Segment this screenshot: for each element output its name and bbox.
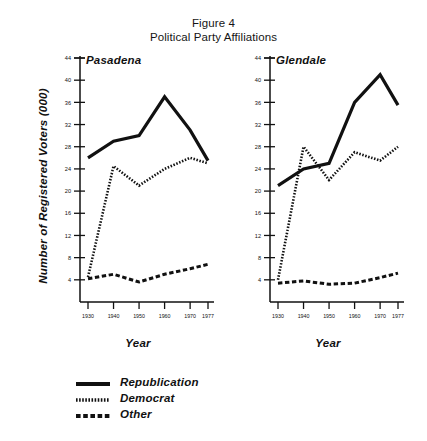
x-tick-label: 1950 bbox=[323, 313, 335, 319]
x-tick-label: 1970 bbox=[374, 313, 386, 319]
y-tick-label: 16 bbox=[255, 210, 261, 216]
x-tick-label: 1940 bbox=[298, 313, 310, 319]
y-tick-label: 12 bbox=[255, 233, 261, 239]
y-tick-label: 36 bbox=[255, 100, 261, 106]
x-axis-title-glendale: Year bbox=[248, 337, 408, 349]
x-tick-label: 1960 bbox=[159, 313, 171, 319]
legend-item-republication: Republication bbox=[76, 376, 296, 392]
legend-item-democrat: Democrat bbox=[76, 392, 296, 408]
legend-item-other: Other bbox=[76, 408, 296, 424]
y-tick-label: 8 bbox=[258, 255, 261, 261]
x-tick-label: 1960 bbox=[349, 313, 361, 319]
y-tick-label: 28 bbox=[255, 144, 261, 150]
series-line-other bbox=[88, 264, 208, 282]
figure-title-line2: Political Party Affiliations bbox=[0, 30, 427, 44]
series-line-other bbox=[278, 273, 398, 284]
figure-title-line1: Figure 4 bbox=[192, 17, 235, 29]
y-axis-title: Number of Registered Voters (000) bbox=[37, 71, 49, 301]
x-tick-label: 1940 bbox=[108, 313, 120, 319]
y-tick-label: 16 bbox=[65, 210, 71, 216]
y-tick-label: 24 bbox=[65, 166, 71, 172]
legend: Republication Democrat Other bbox=[76, 376, 296, 424]
y-tick-label: 40 bbox=[65, 77, 71, 83]
x-tick-label: 1930 bbox=[82, 313, 94, 319]
legend-swatch-dotted bbox=[76, 397, 110, 403]
x-tick-label: 1977 bbox=[392, 313, 404, 319]
y-tick-label: 8 bbox=[68, 255, 71, 261]
chart-panel-glendale: Glendale 4812162024283236404419301940195… bbox=[248, 52, 408, 342]
legend-label-democrat: Democrat bbox=[120, 392, 175, 404]
y-tick-label: 4 bbox=[258, 277, 261, 283]
legend-label-other: Other bbox=[120, 408, 152, 420]
x-axis-title-pasadena: Year bbox=[58, 337, 218, 349]
plot-area-pasadena: 4812162024283236404419301940195019601970… bbox=[58, 52, 218, 337]
y-tick-label: 32 bbox=[255, 122, 261, 128]
legend-label-republication: Republication bbox=[120, 376, 199, 388]
x-tick-label: 1970 bbox=[184, 313, 196, 319]
series-line-democrat bbox=[88, 158, 208, 277]
series-line-republication bbox=[88, 97, 208, 161]
y-tick-label: 40 bbox=[255, 77, 261, 83]
x-tick-label: 1977 bbox=[202, 313, 214, 319]
y-tick-label: 4 bbox=[68, 277, 71, 283]
y-tick-label: 20 bbox=[255, 188, 261, 194]
y-tick-label: 28 bbox=[65, 144, 71, 150]
y-tick-label: 24 bbox=[255, 166, 261, 172]
figure-title: Figure 4 Political Party Affiliations bbox=[0, 16, 427, 44]
series-line-democrat bbox=[278, 147, 398, 280]
legend-swatch-solid bbox=[76, 381, 110, 387]
y-tick-label: 36 bbox=[65, 100, 71, 106]
figure-root: Figure 4 Political Party Affiliations Nu… bbox=[0, 0, 427, 441]
y-tick-label: 44 bbox=[255, 55, 261, 61]
series-line-republication bbox=[278, 75, 398, 186]
plot-area-glendale: 4812162024283236404419301940195019601970… bbox=[248, 52, 408, 337]
legend-swatch-dashed bbox=[76, 413, 110, 419]
x-tick-label: 1950 bbox=[133, 313, 145, 319]
y-tick-label: 12 bbox=[65, 233, 71, 239]
y-tick-label: 32 bbox=[65, 122, 71, 128]
y-tick-label: 20 bbox=[65, 188, 71, 194]
chart-panel-pasadena: Pasadena 4812162024283236404419301940195… bbox=[58, 52, 218, 342]
x-tick-label: 1930 bbox=[272, 313, 284, 319]
y-tick-label: 44 bbox=[65, 55, 71, 61]
